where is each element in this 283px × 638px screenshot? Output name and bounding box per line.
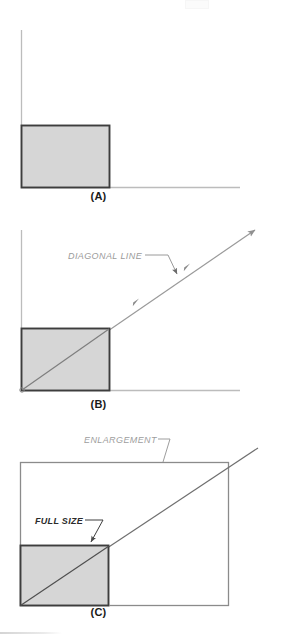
panel-a-caption: (A) — [0, 190, 240, 202]
scan-artifact-top — [185, 0, 209, 9]
original-rectangle — [22, 126, 110, 188]
panel-a-drawing — [0, 0, 283, 212]
panel-b-drawing: DIAGONAL LINE — [0, 212, 283, 422]
scan-artifact-bottom — [0, 632, 62, 634]
diagonal-line-leader — [145, 255, 177, 274]
enlargement-leader — [158, 439, 170, 462]
enlargement-label: ENLARGEMENT — [84, 435, 158, 445]
full-size-label: FULL SIZE — [35, 516, 84, 526]
panel-a: (A) — [0, 0, 283, 212]
panel-c-caption: (C) — [0, 606, 240, 618]
panel-b: DIAGONAL LINE (B) — [0, 212, 283, 422]
panel-b-caption: (B) — [0, 398, 240, 410]
panel-c: ENLARGEMENT FULL SIZE (C) — [0, 422, 283, 638]
figure-sheet: (A) — [0, 0, 283, 638]
diagonal-line-arrowheads — [131, 264, 190, 307]
diagonal-line-label: DIAGONAL LINE — [68, 251, 143, 261]
full-size-leader — [85, 520, 103, 542]
